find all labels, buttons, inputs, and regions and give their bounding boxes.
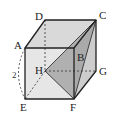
label-a: A <box>14 39 22 51</box>
label-b: B <box>77 51 84 63</box>
dimension-arc <box>19 48 26 99</box>
cube-diagram: D C A B H G E F 2 <box>0 0 115 115</box>
label-g: G <box>99 65 107 77</box>
label-d: D <box>35 10 43 22</box>
label-c: C <box>99 9 106 21</box>
label-e: E <box>20 101 27 113</box>
label-h: H <box>35 64 43 76</box>
label-edge-length: 2 <box>12 70 17 80</box>
label-f: F <box>70 101 76 113</box>
